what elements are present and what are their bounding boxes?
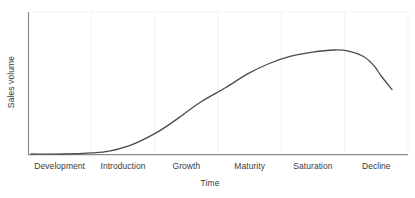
tick-label-saturation: Saturation [281, 160, 344, 174]
product-life-cycle-chart: Sales volume Time Development Introducti… [0, 0, 415, 198]
sales-volume-curve [31, 50, 392, 154]
tick-label-decline: Decline [345, 160, 408, 174]
x-axis-tick-labels: Development Introduction Growth Maturity… [28, 160, 408, 174]
tick-label-maturity: Maturity [218, 160, 281, 174]
tick-label-introduction: Introduction [91, 160, 154, 174]
x-axis-title: Time [188, 178, 232, 188]
tick-label-development: Development [28, 160, 91, 174]
y-axis-title: Sales volume [6, 52, 16, 112]
gridlines [91, 12, 344, 155]
tick-label-growth: Growth [155, 160, 218, 174]
